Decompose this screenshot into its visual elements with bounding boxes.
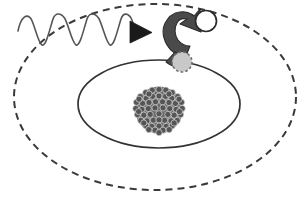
nucleon bbox=[156, 117, 162, 123]
nucleon bbox=[136, 96, 142, 102]
nucleon bbox=[141, 120, 147, 126]
nucleon bbox=[166, 99, 172, 105]
nucleon bbox=[167, 106, 173, 112]
nucleon bbox=[146, 99, 152, 105]
nucleon bbox=[152, 99, 158, 105]
nucleon bbox=[171, 120, 177, 126]
electron-excited-state bbox=[196, 11, 217, 32]
electron-ground-state bbox=[172, 52, 192, 72]
nucleon bbox=[165, 111, 171, 117]
nucleon bbox=[146, 91, 152, 97]
nucleon bbox=[152, 105, 158, 111]
nucleon bbox=[136, 109, 142, 115]
nucleon bbox=[176, 109, 182, 115]
nucleon bbox=[166, 91, 172, 97]
nucleus-cluster bbox=[133, 86, 186, 135]
nucleon bbox=[147, 111, 153, 117]
photon-wave bbox=[18, 14, 135, 45]
nucleon bbox=[156, 93, 162, 99]
nucleon bbox=[176, 96, 182, 102]
nucleon bbox=[146, 127, 152, 133]
nucleon bbox=[159, 99, 165, 105]
nucleon-group bbox=[133, 86, 186, 135]
nucleon bbox=[156, 111, 162, 117]
photon-arrowhead-icon bbox=[130, 21, 152, 43]
nucleon bbox=[156, 130, 162, 136]
nucleon bbox=[156, 86, 162, 92]
nucleon bbox=[145, 106, 151, 112]
excitation-arrow-body bbox=[163, 9, 201, 56]
atom-excitation-figure: Atomic electron excitation by an inciden… bbox=[0, 0, 308, 206]
nucleon bbox=[160, 105, 166, 111]
nucleon bbox=[166, 127, 172, 133]
figure-canvas: Atomic electron excitation by an inciden… bbox=[0, 0, 308, 206]
